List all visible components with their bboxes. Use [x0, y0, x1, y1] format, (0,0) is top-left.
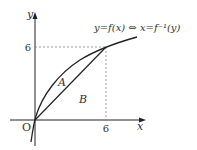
y-axis-label: y — [26, 8, 34, 21]
y-tick-6: 6 — [25, 42, 31, 53]
function-inverse-diagram: y x O 6 6 A B y=f(x) ⇔ x=f⁻¹(y) — [0, 0, 197, 150]
x-tick-6: 6 — [103, 123, 109, 134]
x-axis-label: x — [137, 120, 144, 133]
line-y-equals-x — [35, 47, 106, 120]
region-a-label: A — [57, 76, 66, 89]
y-arrow-icon — [33, 12, 38, 19]
origin-label: O — [22, 121, 31, 134]
curve-equation-label: y=f(x) ⇔ x=f⁻¹(y) — [93, 22, 180, 33]
curve-f — [31, 37, 137, 142]
region-b-label: B — [78, 93, 87, 106]
